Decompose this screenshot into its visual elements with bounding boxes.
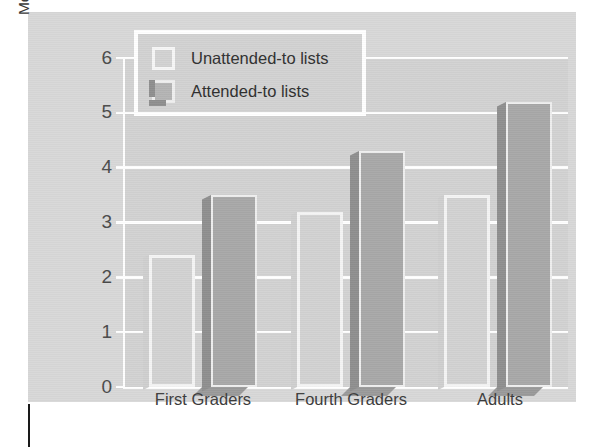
bar-side-face: [350, 151, 359, 391]
legend-label-unattended: Unattended-to lists: [191, 49, 329, 68]
bar-face: [297, 212, 343, 387]
bar-face: [149, 255, 195, 387]
bar-first-graders-attended-to-lists: [211, 195, 257, 387]
y-tickmark-1: [116, 331, 125, 334]
y-axis-title-line1: Mean Number Correctly Recalled: [14, 0, 33, 52]
y-axis-title-line2: (Memory Span): [33, 0, 52, 52]
bar-side-face: [497, 102, 506, 392]
y-axis-title: Mean Number Correctly Recalled (Memory S…: [14, 0, 54, 52]
bar-adults-attended-to-lists: [506, 102, 552, 387]
y-axis-tick-labels: 6 5 4 3 2 1 0: [86, 12, 112, 402]
legend: Unattended-to lists Attended-to lists: [134, 30, 366, 116]
page-margin-rule: [28, 404, 30, 447]
y-tick-6: 6: [86, 47, 112, 69]
bar-face: [506, 102, 552, 387]
x-tick-adults: Adults: [435, 390, 565, 409]
bar-first-graders-unattended-to-lists: [149, 255, 195, 387]
bar-fourth-graders-attended-to-lists: [359, 151, 405, 387]
x-tick-first-graders: First Graders: [123, 390, 283, 409]
legend-item-attended: Attended-to lists: [152, 76, 309, 106]
y-tickmark-5: [116, 112, 125, 115]
y-tick-3: 3: [86, 211, 112, 233]
bar-face: [359, 151, 405, 387]
y-tick-5: 5: [86, 101, 112, 123]
legend-item-unattended: Unattended-to lists: [152, 43, 329, 73]
dark-square-swatch-icon: [152, 80, 175, 103]
light-square-swatch-icon: [152, 47, 175, 70]
x-tick-fourth-graders: Fourth Graders: [263, 390, 439, 409]
y-tickmark-4: [116, 166, 125, 169]
y-tick-0: 0: [86, 376, 112, 398]
bar-adults-unattended-to-lists: [444, 195, 490, 387]
y-tickmark-2: [116, 276, 125, 279]
y-tick-1: 1: [86, 321, 112, 343]
y-tick-4: 4: [86, 156, 112, 178]
figure-panel: Mean Number Correctly Recalled (Memory S…: [28, 12, 576, 402]
bar-face: [211, 195, 257, 387]
bar-side-face: [202, 195, 211, 391]
y-tickmark-6: [116, 57, 125, 60]
legend-label-attended: Attended-to lists: [191, 82, 309, 101]
y-tickmark-3: [116, 221, 125, 224]
bar-group-adults: [444, 58, 552, 387]
bar-face: [444, 195, 490, 387]
x-axis-tick-labels: First Graders Fourth Graders Adults: [123, 390, 569, 414]
caption-text: [104, 434, 224, 447]
bar-fourth-graders-unattended-to-lists: [297, 212, 343, 387]
y-tick-2: 2: [86, 266, 112, 288]
y-tickmark-0: [116, 386, 125, 389]
